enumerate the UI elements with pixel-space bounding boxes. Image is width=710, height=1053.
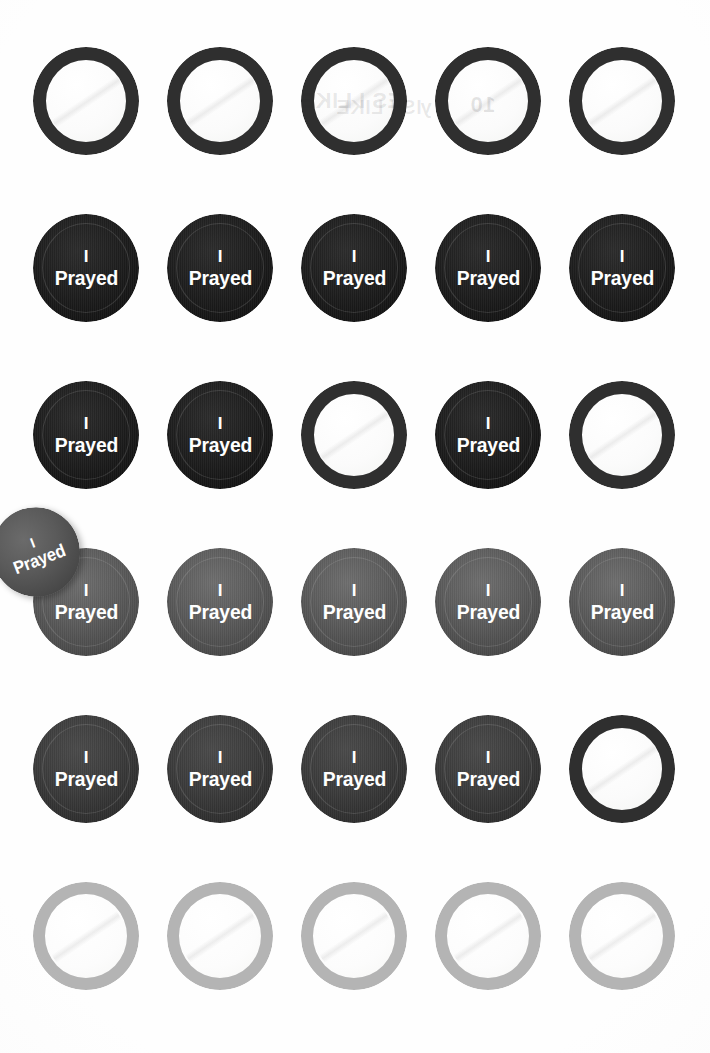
prayed-button[interactable]: IPrayed (435, 715, 541, 823)
button-label-line1: I (186, 249, 255, 265)
button-label-line2: Prayed (188, 267, 251, 288)
prayed-button[interactable] (33, 882, 139, 990)
prayed-button[interactable]: IPrayed (167, 548, 273, 656)
button-label-line2: Prayed (54, 267, 117, 288)
prayed-button[interactable]: IPrayed (167, 715, 273, 823)
button-ring (435, 47, 541, 155)
button-label-line1: I (320, 750, 389, 766)
button-label: IPrayed (52, 750, 121, 789)
button-label: IPrayed (588, 583, 657, 622)
prayed-button[interactable]: IPrayed (33, 214, 139, 322)
button-label-line2: Prayed (54, 601, 117, 622)
button-label-line1: I (52, 416, 121, 432)
button-label: IPrayed (52, 249, 121, 288)
button-label: IPrayed (320, 249, 389, 288)
prayed-button[interactable] (569, 381, 675, 489)
button-label: IPrayed (454, 583, 523, 622)
button-label-line2: Prayed (456, 601, 519, 622)
button-label-line1: I (454, 583, 523, 599)
prayed-button[interactable]: IPrayed (435, 381, 541, 489)
prayed-button[interactable] (301, 381, 407, 489)
button-label: IPrayed (52, 416, 121, 455)
button-ring (569, 715, 675, 823)
button-label: IPrayed (320, 583, 389, 622)
button-label-line2: Prayed (188, 768, 251, 789)
button-label-line1: I (454, 750, 523, 766)
prayed-button[interactable]: IPrayed (435, 214, 541, 322)
button-label-line1: I (454, 249, 523, 265)
button-label: IPrayed (186, 249, 255, 288)
button-label-line2: Prayed (188, 601, 251, 622)
prayed-button[interactable] (167, 47, 273, 155)
button-label-line2: Prayed (456, 768, 519, 789)
prayed-button[interactable] (33, 47, 139, 155)
prayed-button[interactable] (301, 882, 407, 990)
button-label: IPrayed (454, 416, 523, 455)
button-sheet: ES I LIKEIS I LIKEy10 IPrayedIPrayedIPra… (0, 0, 710, 1053)
button-grid: IPrayedIPrayedIPrayedIPrayedIPrayedIPray… (0, 0, 710, 1053)
button-label-line2: Prayed (456, 267, 519, 288)
button-label-line1: I (588, 583, 657, 599)
button-label-line1: I (52, 750, 121, 766)
button-label: IPrayed (186, 750, 255, 789)
prayed-button[interactable]: IPrayed (301, 548, 407, 656)
prayed-button[interactable]: IPrayed (435, 548, 541, 656)
button-label-line1: I (186, 750, 255, 766)
prayed-button[interactable]: IPrayed (167, 214, 273, 322)
prayed-button[interactable] (301, 47, 407, 155)
prayed-button[interactable]: IPrayed (301, 214, 407, 322)
button-ring (301, 882, 407, 990)
prayed-button[interactable]: IPrayed (569, 214, 675, 322)
prayed-button[interactable] (435, 882, 541, 990)
prayed-button[interactable]: IPrayed (167, 381, 273, 489)
prayed-button[interactable] (435, 47, 541, 155)
button-label-line1: I (186, 583, 255, 599)
button-label-line2: Prayed (54, 768, 117, 789)
prayed-button[interactable] (167, 882, 273, 990)
button-label: IPrayed (454, 750, 523, 789)
button-label-line1: I (52, 249, 121, 265)
button-label-line1: I (588, 249, 657, 265)
button-ring (33, 882, 139, 990)
button-ring (569, 47, 675, 155)
button-label: IPrayed (320, 750, 389, 789)
button-ring (569, 882, 675, 990)
button-label-line2: Prayed (322, 768, 385, 789)
button-label-line2: Prayed (322, 601, 385, 622)
button-label-line1: I (320, 249, 389, 265)
button-label-line2: Prayed (188, 434, 251, 455)
button-label-line1: I (320, 583, 389, 599)
prayed-button[interactable]: IPrayed (301, 715, 407, 823)
button-label: IPrayed (588, 249, 657, 288)
prayed-button[interactable] (569, 715, 675, 823)
prayed-button[interactable]: IPrayed (33, 381, 139, 489)
button-ring (435, 882, 541, 990)
button-label-line2: Prayed (590, 267, 653, 288)
button-label-line2: Prayed (54, 434, 117, 455)
button-label-line2: Prayed (322, 267, 385, 288)
button-ring (301, 47, 407, 155)
prayed-button[interactable] (569, 882, 675, 990)
button-ring (33, 47, 139, 155)
button-label: IPrayed (454, 249, 523, 288)
prayed-button[interactable]: IPrayed (33, 715, 139, 823)
button-ring (167, 882, 273, 990)
button-label-line2: Prayed (456, 434, 519, 455)
button-label: IPrayed (186, 583, 255, 622)
button-label-line2: Prayed (590, 601, 653, 622)
button-ring (301, 381, 407, 489)
button-ring (569, 381, 675, 489)
button-ring (167, 47, 273, 155)
prayed-button[interactable] (569, 47, 675, 155)
button-label-line1: I (186, 416, 255, 432)
button-label-line1: I (454, 416, 523, 432)
prayed-button[interactable]: IPrayed (569, 548, 675, 656)
button-label: IPrayed (186, 416, 255, 455)
